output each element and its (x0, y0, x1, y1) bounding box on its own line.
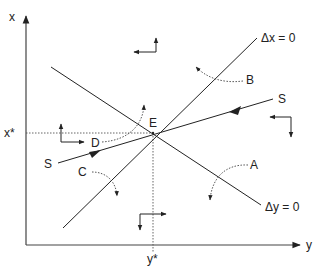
equilibrium-label: E (149, 117, 157, 129)
trajectory-label-c: C (78, 166, 87, 178)
equilibrium-point (152, 132, 154, 134)
saddle-arrow-right-icon (229, 106, 241, 115)
saddle-path-label-right: S (278, 93, 286, 105)
direction-arrows-top (134, 38, 156, 52)
equilibrium-guides (26, 133, 153, 252)
dx-zero-label: Δx = 0 (261, 32, 295, 44)
trajectory-c (92, 172, 117, 196)
horizontal-axis-label: y (306, 239, 312, 251)
direction-arrows-right (270, 117, 291, 137)
saddle-path-label-left: S (44, 158, 52, 170)
dy-zero-label: Δy = 0 (265, 201, 299, 213)
trajectory-label-b: B (246, 74, 254, 86)
trajectory-label-d: D (91, 137, 100, 149)
x-star-label: x* (4, 127, 15, 139)
trajectories (92, 67, 248, 200)
trajectory-label-a: A (250, 159, 258, 171)
trajectory-a (210, 165, 248, 200)
dy-zero-line (51, 67, 261, 205)
direction-arrows-bottom (140, 214, 166, 230)
saddle-arrow-left-icon (89, 150, 101, 158)
y-star-label: y* (147, 253, 158, 265)
vertical-axis-label: x (9, 11, 15, 23)
